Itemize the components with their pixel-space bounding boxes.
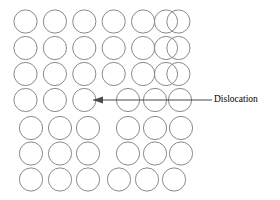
dislocation-label-layer: Dislocation (0, 0, 280, 200)
dislocation-label: Dislocation (214, 94, 258, 104)
dislocation-diagram: Dislocation (0, 0, 280, 200)
